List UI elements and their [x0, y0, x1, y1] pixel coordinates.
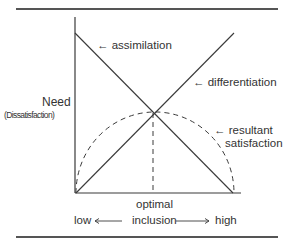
resultant-satisfaction-label-line2: satisfaction — [225, 138, 283, 150]
resultant-satisfaction-curve — [76, 112, 234, 193]
optimal-label: optimal — [136, 199, 173, 211]
y-axis-sublabel: (Dissatisfaction) — [4, 111, 54, 120]
assimilation-label: ← assimilation — [97, 40, 172, 52]
differentiation-label: ← differentiation — [193, 77, 277, 89]
x-axis-high-label: high — [215, 215, 237, 227]
high-arrow-icon — [176, 219, 209, 224]
low-arrow-icon — [95, 219, 122, 224]
assimilation-line — [75, 33, 233, 193]
x-axis-center-label: inclusion — [132, 215, 177, 227]
differentiation-line — [76, 33, 234, 193]
x-axis-low-label: low — [74, 215, 91, 227]
resultant-satisfaction-label-line1: ← resultant — [214, 125, 273, 137]
y-axis-label: Need — [42, 96, 71, 108]
